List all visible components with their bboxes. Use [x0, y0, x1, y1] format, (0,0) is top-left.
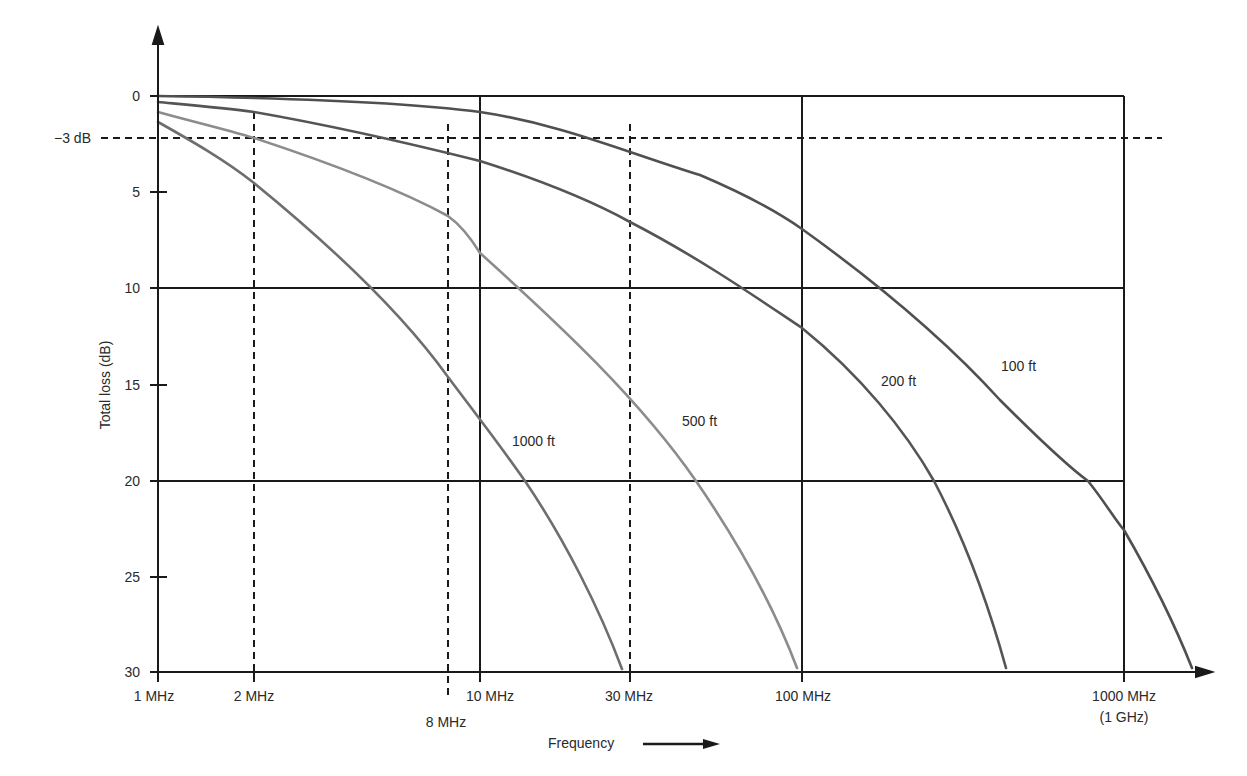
frequency-arrow-icon [643, 739, 720, 749]
grid-lines [150, 96, 1124, 680]
x-tick-1mhz: 1 MHz [134, 688, 174, 704]
axes [150, 28, 1212, 682]
reference-lines [101, 112, 1162, 700]
curve-100ft [158, 96, 1192, 668]
x-tick-8mhz: 8 MHz [426, 714, 466, 730]
curve-1000ft [158, 122, 622, 669]
x-axis-title: Frequency [548, 735, 614, 751]
x-tick-labels: 1 MHz 2 MHz 10 MHz 8 MHz 30 MHz 100 MHz … [134, 688, 1156, 730]
y-tick-30: 30 [124, 664, 140, 680]
x-axis-arrow-icon [1196, 667, 1212, 677]
x-tick-10mhz: 10 MHz [466, 688, 514, 704]
y-tick-25: 25 [124, 569, 140, 585]
curve-label-1000ft: 1000 ft [512, 433, 555, 449]
curve-label-200ft: 200 ft [881, 373, 916, 389]
curves [158, 96, 1192, 669]
y-tick-10: 10 [124, 280, 140, 296]
x-tick-1000mhz: 1000 MHz [1092, 688, 1156, 704]
y-tick-5: 5 [132, 184, 140, 200]
y-tick-20: 20 [124, 473, 140, 489]
x-tick-1000mhz-sub: (1 GHz) [1100, 709, 1149, 725]
x-tick-100mhz: 100 MHz [775, 688, 831, 704]
y-tick-0: 0 [132, 88, 140, 104]
y-tick-labels: 0 5 10 15 20 25 30 [124, 88, 140, 680]
minus3db-label: −3 dB [54, 130, 91, 146]
x-tick-30mhz: 30 MHz [605, 688, 653, 704]
y-tick-15: 15 [124, 377, 140, 393]
curve-200ft [158, 102, 1006, 668]
curve-label-100ft: 100 ft [1001, 358, 1036, 374]
x-tick-2mhz: 2 MHz [234, 688, 274, 704]
y-axis-arrow-icon [153, 28, 163, 44]
curve-label-500ft: 500 ft [682, 413, 717, 429]
y-axis-title: Total loss (dB) [97, 341, 113, 430]
loss-vs-frequency-chart: 0 5 10 15 20 25 30 −3 dB Total loss (dB)… [0, 0, 1247, 776]
